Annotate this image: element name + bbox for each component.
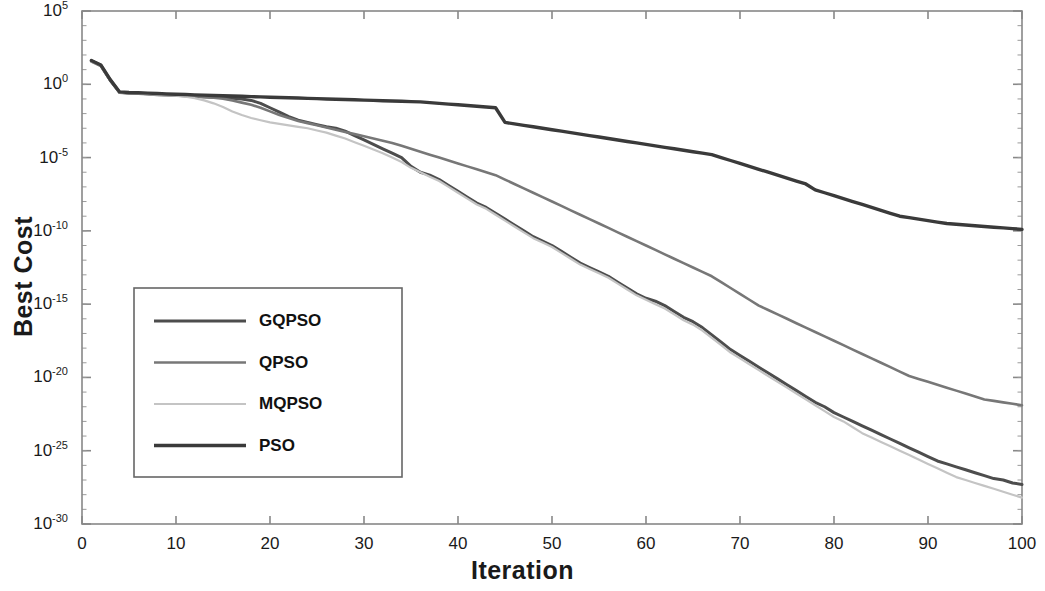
- x-tick-label: 80: [825, 534, 844, 554]
- x-tick-label: 60: [637, 534, 656, 554]
- x-tick-label: 20: [261, 534, 280, 554]
- y-tick-label: 10-5: [0, 148, 68, 168]
- x-tick-label: 50: [543, 534, 562, 554]
- x-axis-title: Iteration: [0, 556, 1045, 585]
- y-tick-label: 10-20: [0, 367, 68, 387]
- y-tick-label: 10-10: [0, 221, 68, 241]
- x-tick-label: 100: [1008, 534, 1036, 554]
- x-tick-label: 70: [731, 534, 750, 554]
- legend-label-gqpso: GQPSO: [259, 311, 321, 331]
- x-tick-label: 0: [77, 534, 86, 554]
- y-tick-label: 100: [0, 74, 68, 94]
- chart-canvas: [0, 0, 1045, 591]
- legend-label-mqpso: MQPSO: [259, 394, 322, 414]
- x-tick-label: 90: [919, 534, 938, 554]
- y-tick-label: 105: [0, 1, 68, 21]
- legend-label-pso: PSO: [259, 436, 295, 456]
- x-tick-label: 30: [355, 534, 374, 554]
- figure-container: Best Cost Iteration 10510010-510-1010-15…: [0, 0, 1045, 591]
- y-tick-label: 10-30: [0, 514, 68, 534]
- x-tick-label: 40: [449, 534, 468, 554]
- y-tick-label: 10-15: [0, 294, 68, 314]
- legend-label-qpso: QPSO: [259, 353, 308, 373]
- x-tick-label: 10: [167, 534, 186, 554]
- y-tick-label: 10-25: [0, 441, 68, 461]
